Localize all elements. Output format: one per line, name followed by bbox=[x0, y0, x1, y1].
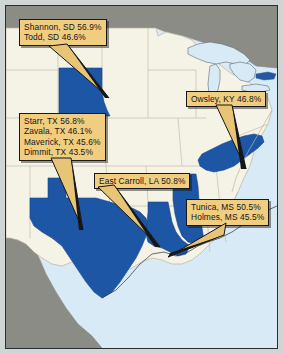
callout-box-south-dakota[interactable]: Shannon, SD 56.9% Todd, SD 46.6% bbox=[19, 19, 107, 46]
callout-box-texas[interactable]: Starr, TX 56.8% Zavala, TX 46.1% Maveric… bbox=[19, 113, 106, 161]
map-figure-frame: Shannon, SD 56.9% Todd, SD 46.6% Starr, … bbox=[0, 0, 283, 354]
callout-louisiana[interactable]: East Carroll, LA 50.8% bbox=[94, 173, 190, 189]
callout-line: Zavala, TX 46.1% bbox=[24, 126, 101, 136]
callout-line: Owsley, KY 46.8% bbox=[191, 94, 261, 104]
callout-line: East Carroll, LA 50.8% bbox=[99, 176, 185, 186]
callout-box-kentucky[interactable]: Owsley, KY 46.8% bbox=[186, 91, 266, 107]
callout-south-dakota[interactable]: Shannon, SD 56.9% Todd, SD 46.6% bbox=[19, 19, 107, 46]
callout-line: Tunica, MS 50.5% bbox=[191, 202, 264, 212]
callout-line: Holmes, MS 45.5% bbox=[191, 212, 264, 222]
callout-box-louisiana[interactable]: East Carroll, LA 50.8% bbox=[94, 173, 190, 189]
callout-line: Todd, SD 46.6% bbox=[24, 32, 102, 42]
callout-texas[interactable]: Starr, TX 56.8% Zavala, TX 46.1% Maveric… bbox=[19, 113, 106, 161]
callout-kentucky[interactable]: Owsley, KY 46.8% bbox=[186, 91, 266, 107]
callout-line: Maverick, TX 45.6% bbox=[24, 137, 101, 147]
callout-mississippi[interactable]: Tunica, MS 50.5% Holmes, MS 45.5% bbox=[186, 199, 269, 226]
callout-line: Dimmit, TX 43.5% bbox=[24, 147, 101, 157]
callout-box-mississippi[interactable]: Tunica, MS 50.5% Holmes, MS 45.5% bbox=[186, 199, 269, 226]
callout-line: Starr, TX 56.8% bbox=[24, 116, 101, 126]
callout-line: Shannon, SD 56.9% bbox=[24, 22, 102, 32]
map-canvas: Shannon, SD 56.9% Todd, SD 46.6% Starr, … bbox=[5, 5, 278, 349]
